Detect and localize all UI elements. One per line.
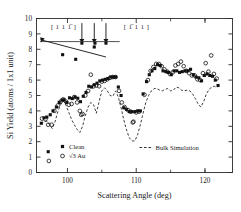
data-point-clean xyxy=(79,100,82,103)
data-point-clean xyxy=(164,70,167,73)
y-axis-tick-label: 2 xyxy=(28,138,32,146)
data-point-clean xyxy=(55,106,58,109)
x-axis-title: Scattering Angle (deg) xyxy=(97,191,171,200)
data-point-clean xyxy=(98,79,101,82)
x-axis-tick-label: 120 xyxy=(200,177,211,185)
data-point-clean xyxy=(74,58,77,61)
data-point-clean xyxy=(172,69,175,72)
data-point-clean xyxy=(159,64,162,67)
data-point-clean xyxy=(82,95,85,98)
legend-marker-sqrt3-au xyxy=(61,154,65,158)
data-point-clean xyxy=(156,63,159,66)
y-axis-tick-label: 7 xyxy=(28,61,32,69)
data-point-sqrt3-au xyxy=(182,64,186,68)
data-point-clean xyxy=(106,77,109,80)
data-point-clean xyxy=(90,85,93,88)
data-point-clean xyxy=(200,79,203,82)
data-point-clean xyxy=(150,69,153,72)
y-axis-tick-label: 9 xyxy=(28,31,32,39)
y-axis-tick-label: 1 xyxy=(28,154,32,162)
bulk-simulation-curve xyxy=(41,86,217,141)
data-point-clean xyxy=(192,73,195,76)
data-point-clean xyxy=(178,71,181,74)
data-point-clean xyxy=(58,101,61,104)
data-point-clean xyxy=(131,110,134,113)
data-point-clean xyxy=(84,91,87,94)
data-point-clean xyxy=(181,70,184,73)
data-point-clean xyxy=(133,110,136,113)
data-point-clean xyxy=(62,98,65,101)
data-point-clean xyxy=(45,116,48,119)
data-point-clean xyxy=(109,75,112,78)
legend-marker-clean xyxy=(61,145,64,148)
data-point-clean xyxy=(189,68,192,71)
data-point-clean xyxy=(170,73,173,76)
data-point-clean xyxy=(114,75,117,78)
data-point-clean xyxy=(73,95,76,98)
data-point-clean xyxy=(47,150,50,153)
data-point-clean xyxy=(68,96,71,99)
data-point-sqrt3-au xyxy=(120,101,124,105)
data-point-clean xyxy=(211,75,214,78)
data-point-clean xyxy=(148,73,151,76)
data-point-sqrt3-au xyxy=(47,159,51,163)
y-axis-tick-label: 8 xyxy=(28,46,32,54)
data-point-clean xyxy=(101,79,104,82)
data-point-clean xyxy=(195,75,198,78)
legend-label-clean: Clean xyxy=(69,143,85,150)
y-axis-title: Si Yield (atoms / 1x1 unit) xyxy=(6,52,15,139)
data-point-clean xyxy=(217,84,220,87)
data-point-clean xyxy=(65,101,68,104)
data-point-sqrt3-au xyxy=(209,54,213,58)
miller-index-label: [ 1 1 1̅ ] xyxy=(51,23,77,30)
data-point-clean xyxy=(214,79,217,82)
data-point-clean xyxy=(136,109,139,112)
data-point-clean xyxy=(175,69,178,72)
legend-label-bulk-simulation: Bulk Simulation xyxy=(156,144,200,151)
data-point-clean xyxy=(142,92,145,95)
data-point-sqrt3-au xyxy=(89,73,93,77)
data-point-clean xyxy=(40,122,43,125)
data-point-clean xyxy=(128,110,131,113)
legend-label-sqrt3-au: √3 Au xyxy=(69,152,86,159)
data-point-clean xyxy=(167,71,170,74)
y-axis-tick-label: 3 xyxy=(28,123,32,131)
data-point-clean xyxy=(51,109,54,112)
data-point-clean xyxy=(125,108,128,111)
data-point-clean xyxy=(87,85,90,88)
data-point-clean xyxy=(208,74,211,77)
data-point-clean xyxy=(184,69,187,72)
miller-index-label: [ 1̅ 1 1 ] xyxy=(124,23,150,30)
data-point-clean xyxy=(120,94,123,97)
annotation-arrow-head xyxy=(103,39,108,43)
data-layer: [ 1 1 1̅ ][ 1̅ 1 1 ] xyxy=(40,23,220,163)
si-yield-scatter-chart: 012345678910100110120Scattering Angle (d… xyxy=(0,0,241,212)
y-axis-tick-label: 10 xyxy=(25,15,33,23)
data-point-sqrt3-au xyxy=(78,109,82,113)
data-point-sqrt3-au xyxy=(204,61,208,65)
data-point-clean xyxy=(49,113,52,116)
data-point-clean xyxy=(95,82,98,85)
data-point-clean xyxy=(71,97,74,100)
data-point-sqrt3-au xyxy=(75,101,79,105)
y-axis-tick-label: 5 xyxy=(28,92,32,100)
data-point-clean xyxy=(206,72,209,75)
data-point-clean xyxy=(186,69,189,72)
data-point-clean xyxy=(43,116,46,119)
data-point-clean xyxy=(139,109,142,112)
y-axis-tick-label: 4 xyxy=(28,108,32,116)
data-point-sqrt3-au xyxy=(117,89,121,93)
data-point-clean xyxy=(117,85,120,88)
y-axis-tick-label: 6 xyxy=(28,77,32,85)
y-axis-tick-label: 0 xyxy=(28,169,32,177)
data-point-clean xyxy=(161,69,164,72)
x-axis-tick-label: 100 xyxy=(62,177,73,185)
data-point-clean xyxy=(104,78,107,81)
data-point-clean xyxy=(197,76,200,79)
data-point-clean xyxy=(153,67,156,70)
data-point-clean xyxy=(122,106,125,109)
data-point-clean xyxy=(145,80,148,83)
figure-container: 012345678910100110120Scattering Angle (d… xyxy=(0,0,241,212)
data-point-clean xyxy=(203,74,206,77)
data-point-clean xyxy=(93,45,96,48)
